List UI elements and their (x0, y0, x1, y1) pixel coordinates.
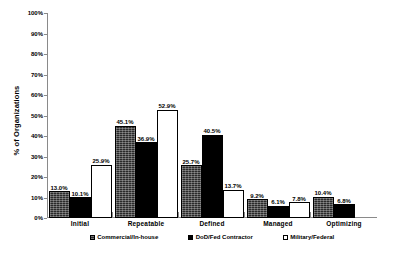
bar-group: 45.1%36.9%52.9% (113, 13, 179, 218)
bar-slot: 25.9% (91, 13, 112, 218)
bar-slot: 25.7% (181, 13, 202, 218)
bar: 13.7% (223, 190, 244, 218)
legend-item-label: DoD/Fed Contractor (196, 234, 253, 240)
plot-area: 0%10%20%30%40%50%60%70%80%90%100% 13.0%1… (47, 13, 377, 218)
bar: 25.7% (181, 165, 202, 218)
bar: 6.8% (334, 204, 355, 218)
bar-value-label: 36.9% (137, 136, 154, 142)
bar-groups: 13.0%10.1%25.9%45.1%36.9%52.9%25.7%40.5%… (47, 13, 377, 218)
top-edge-artifact (0, 0, 397, 7)
bar: 10.1% (70, 197, 91, 218)
bar-group-bars: 25.7%40.5%13.7% (179, 13, 245, 218)
legend-swatch-icon (188, 235, 193, 240)
bar-slot: 10.4% (313, 13, 334, 218)
x-axis-category-label: Repeatable (113, 220, 179, 227)
legend-item-label: Commercial/In-house (97, 234, 158, 240)
bar: 10.4% (313, 197, 334, 218)
bar-group-bars: 9.2%6.1%7.8% (245, 13, 311, 218)
x-axis-category-label: Optimizing (311, 220, 377, 227)
bar-value-label: 25.9% (92, 158, 109, 164)
x-axis-category-label: Managed (245, 220, 311, 227)
bar-value-label: 6.8% (337, 198, 351, 204)
bar-group-bars: 10.4%6.8% (311, 13, 377, 218)
legend-swatch-icon (283, 235, 288, 240)
bar-group-bars: 13.0%10.1%25.9% (47, 13, 113, 218)
x-axis-category-labels: InitialRepeatableDefinedManagedOptimizin… (47, 220, 377, 227)
bar: 9.2% (247, 199, 268, 218)
x-axis-category-label: Initial (47, 220, 113, 227)
bar-slot (355, 13, 376, 218)
bar-slot: 6.8% (334, 13, 355, 218)
bar-slot: 52.9% (157, 13, 178, 218)
bar-value-label: 25.7% (182, 159, 199, 165)
bar-value-label: 45.1% (116, 119, 133, 125)
bar-slot: 7.8% (289, 13, 310, 218)
y-axis-tick-mark (44, 218, 47, 219)
bar-group-bars: 45.1%36.9%52.9% (113, 13, 179, 218)
chart-legend: Commercial/In-houseDoD/Fed ContractorMil… (47, 234, 377, 240)
bar-group: 25.7%40.5%13.7% (179, 13, 245, 218)
bar-slot: 9.2% (247, 13, 268, 218)
legend-item[interactable]: Military/Federal (283, 234, 335, 240)
bar: 7.8% (289, 202, 310, 218)
bar-value-label: 52.9% (158, 103, 175, 109)
bar: 40.5% (202, 135, 223, 218)
bar-value-label: 6.1% (271, 199, 285, 205)
bar-slot: 13.0% (49, 13, 70, 218)
bar-slot: 10.1% (70, 13, 91, 218)
bar-chart: % of Organizations 0%10%20%30%40%50%60%7… (0, 0, 397, 253)
bar-value-label: 10.1% (71, 191, 88, 197)
bar: 45.1% (115, 126, 136, 218)
bar: 25.9% (91, 165, 112, 218)
bar-slot: 40.5% (202, 13, 223, 218)
bar-value-label: 9.2% (250, 193, 264, 199)
bar-group: 10.4%6.8% (311, 13, 377, 218)
bar-slot: 13.7% (223, 13, 244, 218)
bar-slot: 6.1% (268, 13, 289, 218)
bar-value-label: 40.5% (203, 128, 220, 134)
x-axis-category-label: Defined (179, 220, 245, 227)
bar: 13.0% (49, 191, 70, 218)
bar-value-label: 13.7% (224, 183, 241, 189)
legend-item[interactable]: Commercial/In-house (90, 234, 159, 240)
bar-value-label: 13.0% (50, 185, 67, 191)
bar: 6.1% (268, 206, 289, 219)
bar-group: 13.0%10.1%25.9% (47, 13, 113, 218)
legend-item[interactable]: DoD/Fed Contractor (188, 234, 253, 240)
y-axis-title: % of Organizations (12, 61, 21, 181)
bar: 36.9% (136, 142, 157, 218)
legend-item-label: Military/Federal (290, 234, 334, 240)
bar-slot: 36.9% (136, 13, 157, 218)
bar-slot: 45.1% (115, 13, 136, 218)
bar: 52.9% (157, 110, 178, 218)
bar-group: 9.2%6.1%7.8% (245, 13, 311, 218)
bar-value-label: 7.8% (292, 196, 306, 202)
bar-value-label: 10.4% (314, 190, 331, 196)
legend-swatch-icon (90, 235, 95, 240)
